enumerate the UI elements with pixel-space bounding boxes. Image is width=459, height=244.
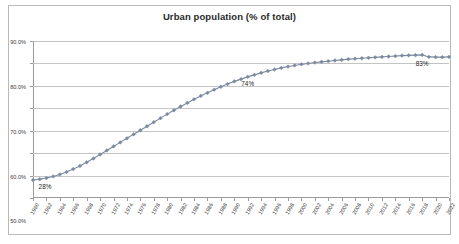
x-tick-mark	[60, 198, 61, 201]
data-point-marker	[192, 97, 196, 101]
data-point-marker	[58, 173, 62, 177]
x-tick-mark	[288, 198, 289, 201]
data-point-marker	[65, 170, 69, 174]
data-point-marker	[226, 82, 230, 86]
x-tick-mark	[221, 198, 222, 201]
x-tick-mark	[46, 198, 47, 201]
x-tick-mark	[207, 198, 208, 201]
data-point-marker	[340, 58, 344, 62]
x-tick-mark	[315, 198, 316, 201]
data-point-marker	[393, 54, 397, 58]
x-tick-mark	[140, 198, 141, 201]
data-point-marker	[306, 62, 310, 66]
y-tick-label: 90.0%	[10, 39, 26, 45]
x-tick-mark	[87, 198, 88, 201]
data-point-marker	[373, 55, 377, 59]
data-point-marker	[199, 94, 203, 98]
data-point-marker	[232, 79, 236, 83]
x-tick-mark	[194, 198, 195, 201]
y-tick-label: 70.0%	[10, 129, 26, 135]
data-point-marker	[387, 55, 391, 59]
data-point-marker	[212, 88, 216, 92]
data-point-marker	[427, 55, 431, 59]
x-tick-mark	[248, 198, 249, 201]
x-tick-mark	[100, 198, 101, 201]
data-point-marker	[360, 56, 364, 60]
data-point-marker	[253, 73, 257, 77]
x-tick-mark	[382, 198, 383, 201]
x-tick-mark	[342, 198, 343, 201]
data-point-marker	[38, 177, 42, 181]
chart-title: Urban population (% of total)	[0, 11, 459, 22]
x-tick-mark	[275, 198, 276, 201]
data-point-marker	[71, 167, 75, 171]
data-point-marker	[346, 57, 350, 61]
x-tick-mark	[167, 198, 168, 201]
x-tick-mark	[261, 198, 262, 201]
series-line	[33, 55, 449, 180]
x-tick-mark	[301, 198, 302, 201]
data-point-marker	[407, 53, 411, 57]
data-point-marker	[326, 59, 330, 63]
data-point-marker	[320, 60, 324, 64]
y-tick-label: 60.0%	[10, 174, 26, 180]
data-point-marker	[353, 57, 357, 61]
x-tick-mark	[422, 198, 423, 201]
data-point-label: 28%	[39, 183, 52, 190]
data-point-label: 83%	[416, 60, 429, 67]
chart-container: Urban population (% of total) 20.0%30.0%…	[0, 0, 459, 244]
data-point-marker	[420, 53, 424, 57]
data-point-marker	[206, 91, 210, 95]
x-tick-mark	[409, 198, 410, 201]
data-point-marker	[414, 53, 418, 57]
y-tick-label: 80.0%	[10, 84, 26, 90]
data-point-marker	[293, 64, 297, 68]
data-point-marker	[266, 69, 270, 73]
data-point-marker	[440, 55, 444, 59]
x-tick-mark	[154, 198, 155, 201]
data-point-marker	[367, 56, 371, 60]
x-tick-mark	[328, 198, 329, 201]
x-tick-mark	[234, 198, 235, 201]
data-point-marker	[279, 66, 283, 70]
y-tick-label: 50.0%	[10, 218, 26, 224]
x-tick-mark	[181, 198, 182, 201]
x-tick-mark	[395, 198, 396, 201]
x-tick-mark	[33, 198, 34, 201]
data-point-marker	[51, 175, 55, 179]
plot-area: 20.0%30.0%40.0%50.0%60.0%70.0%80.0%90.0%…	[33, 41, 449, 198]
series-urban-population	[33, 41, 449, 198]
data-point-marker	[313, 61, 317, 65]
data-point-marker	[219, 85, 223, 89]
data-point-marker	[246, 75, 250, 79]
data-point-marker	[259, 71, 263, 75]
data-point-marker	[45, 176, 49, 180]
data-point-marker	[333, 59, 337, 63]
data-point-marker	[400, 54, 404, 58]
x-tick-mark	[368, 198, 369, 201]
x-tick-mark	[436, 198, 437, 201]
x-tick-mark	[114, 198, 115, 201]
x-tick-mark	[73, 198, 74, 201]
data-point-marker	[273, 68, 277, 72]
x-tick-mark	[127, 198, 128, 201]
data-point-marker	[434, 55, 438, 59]
data-point-marker	[380, 55, 384, 59]
data-point-marker	[299, 62, 303, 66]
data-point-marker	[286, 65, 290, 69]
x-tick-mark	[449, 198, 450, 201]
data-point-label: 74%	[241, 80, 254, 87]
x-tick-mark	[355, 198, 356, 201]
